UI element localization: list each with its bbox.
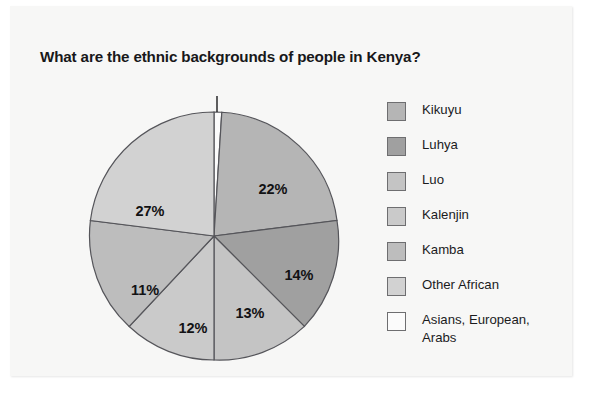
legend-item-asians-european-arabs[interactable]: Asians, European, Arabs xyxy=(387,311,567,346)
pie-label-kikuyu: 22% xyxy=(258,181,287,197)
pie-label-kamba: 11% xyxy=(131,282,159,298)
legend-swatch-kikuyu xyxy=(387,102,406,121)
figure-card: What are the ethnic backgrounds of peopl… xyxy=(10,6,572,376)
legend-item-other-african[interactable]: Other African xyxy=(387,276,567,311)
legend-swatch-luhya xyxy=(387,137,406,156)
pie-label-luo: 13% xyxy=(235,305,264,321)
legend-item-kalenjin[interactable]: Kalenjin xyxy=(387,206,567,241)
pie-label-asians-european-arabs: 1% xyxy=(207,90,227,92)
legend-item-kikuyu[interactable]: Kikuyu xyxy=(387,101,567,136)
pie-label-kalenjin: 12% xyxy=(178,320,207,336)
legend-label-luhya: Luhya xyxy=(422,136,458,154)
pie-label-luhya: 14% xyxy=(284,267,313,283)
legend: Kikuyu Luhya Luo Kalenjin Kamba Other Af… xyxy=(387,101,567,346)
pie-chart: 1% 22% 14% 13% 12% 11% 27% xyxy=(70,90,370,380)
legend-item-luo[interactable]: Luo xyxy=(387,171,567,206)
page-title: What are the ethnic backgrounds of peopl… xyxy=(40,48,421,65)
legend-item-luhya[interactable]: Luhya xyxy=(387,136,567,171)
pie-label-other-african: 27% xyxy=(135,203,164,219)
legend-label-kalenjin: Kalenjin xyxy=(422,206,469,224)
legend-label-luo: Luo xyxy=(422,171,444,189)
legend-swatch-kalenjin xyxy=(387,207,406,226)
legend-swatch-asians-european-arabs xyxy=(387,312,406,331)
legend-label-kikuyu: Kikuyu xyxy=(422,101,462,119)
legend-swatch-luo xyxy=(387,172,406,191)
legend-label-kamba: Kamba xyxy=(422,241,464,259)
pie-slice-kikuyu[interactable] xyxy=(214,112,337,236)
legend-label-other-african: Other African xyxy=(422,276,499,294)
legend-swatch-kamba xyxy=(387,242,406,261)
legend-label-asians-european-arabs: Asians, European, Arabs xyxy=(422,311,530,346)
legend-item-kamba[interactable]: Kamba xyxy=(387,241,567,276)
pie-chart-svg: 1% 22% 14% 13% 12% 11% 27% xyxy=(70,90,370,380)
legend-swatch-other-african xyxy=(387,277,406,296)
